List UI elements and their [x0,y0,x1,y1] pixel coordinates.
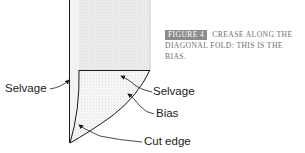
label-cut-edge: Cut edge [144,136,191,148]
fabric-fold-diagram [0,0,305,153]
figure-number-tag: FIGURE 4 [165,30,207,40]
folded-triangle [70,70,150,143]
figure-caption: FIGURE 4CREASE ALONG THE DIAGONAL FOLD: … [165,29,305,63]
label-bias: Bias [156,108,178,120]
label-selvage-right: Selvage [153,86,195,98]
fabric-upper [70,0,150,71]
label-selvage-left: Selvage [5,83,47,95]
